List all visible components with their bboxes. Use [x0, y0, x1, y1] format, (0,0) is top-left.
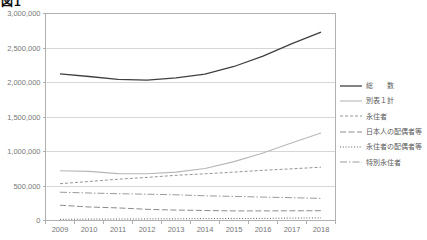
x-tick-label: 2014: [197, 225, 214, 234]
y-tick-label: 1,000,000: [7, 147, 40, 156]
legend-label: 総 数: [366, 82, 394, 89]
legend-item-2: 永住者: [340, 109, 422, 124]
gridlines: [46, 14, 336, 187]
legend-label: 別表１計: [366, 97, 394, 104]
series-line-0: [60, 32, 321, 80]
legend-swatch-icon: [340, 128, 362, 136]
x-tick-label: 2018: [313, 225, 330, 234]
figure: 図1 0500,0001,000,0001,500,0002,000,0002,…: [0, 0, 427, 240]
legend-label: 永住者: [366, 113, 387, 120]
y-tick-label: 3,000,000: [7, 9, 40, 18]
y-tick-label: 500,000: [13, 182, 40, 191]
series-lines: [60, 32, 321, 219]
y-tick-label: 0: [36, 216, 40, 225]
legend-item-3: 日本人の配偶者等: [340, 124, 422, 139]
legend-item-0: 総 数: [340, 78, 422, 93]
series-line-2: [60, 167, 321, 184]
legend-swatch-icon: [340, 158, 362, 166]
x-tick-label: 2010: [81, 225, 98, 234]
x-tick-label: 2011: [110, 225, 126, 234]
x-tick-label: 2009: [52, 225, 69, 234]
x-tick-label: 2012: [139, 225, 156, 234]
y-tick-label: 2,500,000: [7, 44, 40, 53]
x-tick-label: 2016: [255, 225, 272, 234]
legend-label: 日本人の配偶者等: [366, 128, 422, 135]
legend: 総 数別表１計永住者日本人の配偶者等永住者の配偶者等特別永住者: [340, 78, 422, 170]
series-line-4: [60, 218, 321, 219]
y-tick-label: 1,500,000: [7, 113, 40, 122]
x-tick-label: 2013: [168, 225, 185, 234]
series-line-3: [60, 205, 321, 211]
series-line-1: [60, 133, 321, 174]
legend-swatch-icon: [340, 112, 362, 120]
legend-item-5: 特別永住者: [340, 154, 422, 169]
legend-swatch-icon: [340, 97, 362, 105]
legend-item-1: 別表１計: [340, 93, 422, 108]
y-axis-labels: 0500,0001,000,0001,500,0002,000,0002,500…: [7, 9, 40, 225]
x-tick-label: 2015: [226, 225, 243, 234]
y-tick-label: 2,000,000: [7, 78, 40, 87]
legend-swatch-icon: [340, 143, 362, 151]
x-tick-label: 2017: [284, 225, 301, 234]
x-axis-labels: 2009201020112012201320142015201620172018: [52, 225, 330, 234]
axis-ticks: [43, 14, 336, 224]
legend-label: 永住者の配偶者等: [366, 143, 422, 150]
series-line-5: [60, 192, 321, 198]
legend-label: 特別永住者: [366, 159, 401, 166]
legend-item-4: 永住者の配偶者等: [340, 139, 422, 154]
legend-swatch-icon: [340, 82, 362, 90]
